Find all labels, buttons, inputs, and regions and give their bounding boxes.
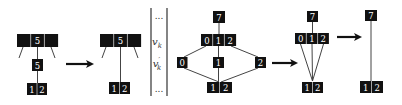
cell-label: 2 [223,83,228,93]
tree-3-node-root: 7 [213,11,225,23]
cell-label: 2 [228,36,233,46]
tree-3: 701201212 [177,11,266,93]
nodes-layer: 5512512701201212701212712 [17,10,383,95]
tree-1-node-bottom: 12 [27,83,47,95]
tree-edge [184,68,219,82]
cell-label: 7 [216,13,221,23]
column-entry-v-prime-k: v′k [153,56,162,72]
cell-label: 1 [29,85,34,95]
cell-label: 1 [305,83,310,93]
tree-edge [231,46,258,57]
cell-label: 0 [180,58,185,68]
tree-edge [313,44,324,81]
tree-4-node-bottom: 12 [302,82,323,93]
tree-edge [102,47,106,58]
cell-label: 7 [310,12,315,22]
cell-label: 5 [35,61,40,71]
tree-edge [312,44,313,81]
cell-label: 1 [216,36,221,46]
tree-1-node-mid: 5 [32,59,43,71]
tree-1-node-top: 5 [17,34,58,47]
column-entry-v-k: vk [152,36,162,50]
cell-label: 1 [112,84,117,94]
tree-3-node-center: 1 [213,57,224,68]
tree-4-node-mid: 012 [295,33,329,44]
arrow-3 [337,33,362,41]
arrow-2 [272,59,298,67]
node-cell [44,34,58,47]
tree-edge [184,46,206,57]
tree-2-node-top: 5 [100,34,141,47]
cell-label: 2 [315,83,320,93]
cell-label: 1 [309,34,314,44]
tree-edge [221,68,258,82]
cell-label: 2 [39,85,44,95]
tree-3-node-left: 0 [177,57,188,68]
vector-column: ...vkv′k... [151,8,167,96]
tree-2-node-bottom: 12 [109,82,130,94]
tree-edge [19,47,23,58]
cell-label: 2 [321,34,326,44]
tree-3-node-bottom: 12 [207,82,232,93]
edges-layer [19,21,371,83]
node-cell [127,34,141,47]
column-ellipsis: ... [155,11,164,21]
tree-edge [134,47,138,58]
tree-edge [51,47,55,58]
tree-3-node-right: 2 [255,57,266,68]
tree-edge [301,44,313,81]
cell-label: 1 [211,83,216,93]
tree-5-node-bottom: 12 [360,81,383,93]
tree-4-node-root: 7 [307,11,318,22]
cell-label: 2 [122,84,127,94]
cell-label: 5 [118,36,123,46]
tree-3-node-mid: 012 [201,34,236,46]
tree-5-node-root: 7 [365,10,377,21]
column-ellipsis: ... [155,84,164,94]
lattice-diagram: ...vkv′k... 5512512701201212701212712 [0,0,402,105]
node-cell [100,34,114,47]
tree-1: 5512 [17,34,58,95]
arrow-1 [66,60,94,68]
cell-label: 1 [363,83,368,93]
cell-label: 0 [204,36,209,46]
cell-label: 2 [375,83,380,93]
node-cell [17,34,31,47]
cell-label: 0 [298,34,303,44]
cell-label: 2 [258,58,263,68]
cell-label: 1 [216,58,221,68]
cell-label: 7 [368,11,373,21]
cell-label: 5 [35,36,40,46]
